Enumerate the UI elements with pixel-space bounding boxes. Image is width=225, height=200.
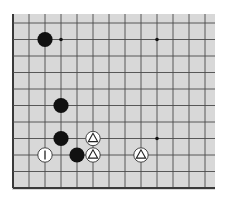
white-stone [38, 148, 52, 162]
black-stone-icon [53, 98, 68, 113]
black-stone [53, 131, 68, 146]
star-point [59, 38, 63, 42]
go-board [0, 0, 225, 200]
black-stone-icon [37, 32, 52, 47]
black-stone [69, 147, 84, 162]
star-point [155, 137, 159, 141]
black-stone [37, 32, 52, 47]
white-stone [86, 148, 100, 162]
white-stone [134, 148, 148, 162]
star-point [155, 38, 159, 42]
black-stone-icon [53, 131, 68, 146]
black-stone-icon [69, 147, 84, 162]
black-stone [53, 98, 68, 113]
white-stone [86, 131, 100, 145]
